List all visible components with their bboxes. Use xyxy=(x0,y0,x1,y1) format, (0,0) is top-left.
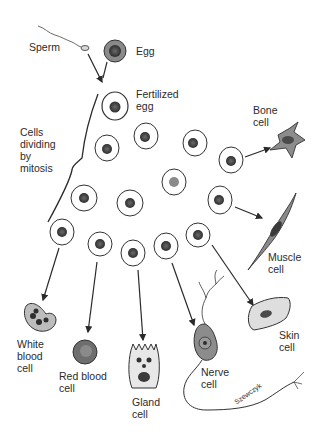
cell-icon xyxy=(154,233,178,259)
cell-icon xyxy=(88,232,112,256)
dividing-cells xyxy=(50,123,243,266)
cell-icon xyxy=(208,186,232,214)
white-blood-cell-label: White blood cell xyxy=(17,338,44,374)
mitosis-label: Cells dividing by mitosis xyxy=(20,126,56,174)
bone-cell-label: Bone cell xyxy=(253,104,278,128)
sperm-label: Sperm xyxy=(29,41,60,53)
red-blood-cell-label: Red blood cell xyxy=(59,370,107,394)
arrow-egg-to-fertilized xyxy=(103,62,107,78)
gland-cell-icon xyxy=(129,344,159,388)
skin-cell-label: Skin cell xyxy=(279,329,299,353)
nerve-cell-label: Nerve cell xyxy=(201,366,229,390)
muscle-cell-label: Muscle cell xyxy=(268,251,301,275)
diagram-canvas xyxy=(0,0,317,435)
white-blood-cell-icon xyxy=(24,303,56,331)
skin-cell-icon xyxy=(248,297,290,330)
cell-icon xyxy=(95,135,119,161)
cell-icon xyxy=(121,240,145,266)
cell-icon xyxy=(134,123,158,149)
red-blood-cell-icon xyxy=(73,340,97,364)
cell-icon xyxy=(162,169,186,195)
cell-icon xyxy=(186,223,210,247)
cell-icon xyxy=(183,130,207,156)
egg-label: Egg xyxy=(136,45,155,57)
fertilized-egg-icon xyxy=(102,92,128,120)
arrow-sperm-to-fertilized xyxy=(88,54,102,82)
egg-cell-icon xyxy=(104,40,126,62)
cell-icon xyxy=(117,190,143,216)
cell-icon xyxy=(219,147,243,173)
cell-icon xyxy=(50,219,74,245)
gland-cell-label: Gland cell xyxy=(132,396,160,420)
fertilized-egg-label: Fertilized egg xyxy=(136,88,179,112)
cell-icon xyxy=(71,185,97,211)
